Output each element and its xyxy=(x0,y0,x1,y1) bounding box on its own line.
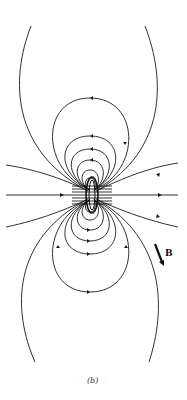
axis-field-line xyxy=(6,193,178,197)
magnetic-field-diagram: B (b) xyxy=(0,0,187,400)
b-field-vector: B xyxy=(155,244,173,266)
b-arrow-icon xyxy=(155,244,162,262)
figure-caption: (b) xyxy=(87,376,98,385)
b-vector-label: B xyxy=(165,248,173,258)
